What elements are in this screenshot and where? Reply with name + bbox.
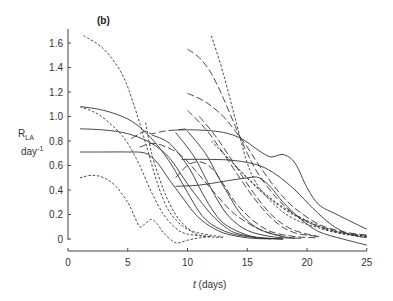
y-tick-label: 1.4 <box>49 62 63 73</box>
y-tick-label: 0.6 <box>49 160 63 171</box>
y-tick-label: 1.6 <box>49 38 63 49</box>
series-line-solid-7 <box>152 135 284 239</box>
x-tick-label: 15 <box>242 257 254 268</box>
chart-title: (b) <box>97 15 110 26</box>
y-axis-unit: day <box>21 146 37 157</box>
x-tick-label: 0 <box>65 257 71 268</box>
y-axis-unit-sup: -1 <box>37 145 43 152</box>
series-line-solid-1 <box>81 107 283 239</box>
series-line-long-dash-7 <box>199 117 319 237</box>
y-axis-title-unit: day-1 <box>21 145 43 157</box>
series-line-short-dash-7 <box>223 153 366 236</box>
y-axis-title-main: RLA <box>18 128 34 141</box>
y-tick-label: 0.8 <box>49 136 63 147</box>
x-axis-title: t (days) <box>193 279 226 290</box>
series-line-solid-3 <box>80 152 271 239</box>
x-axis-title-unit: (days) <box>196 279 227 290</box>
series-line-long-dash-5 <box>176 162 319 238</box>
y-tick-label: 0.2 <box>49 209 63 220</box>
y-tick-label: 0.4 <box>49 185 63 196</box>
x-tick-label: 25 <box>361 257 373 268</box>
x-tick-label: 20 <box>301 257 313 268</box>
y-tick-label: 1.0 <box>49 111 63 122</box>
series-line-solid-6 <box>176 177 367 245</box>
x-tick-label: 5 <box>125 257 131 268</box>
x-tick-label: 10 <box>182 257 194 268</box>
y-axis-subscript: LA <box>25 134 34 141</box>
y-tick-label: 0 <box>57 234 63 245</box>
series-line-solid-2 <box>80 129 283 239</box>
y-axis-title: RLA day-1 <box>18 128 43 157</box>
series-lines <box>80 36 367 245</box>
y-axis-symbol: R <box>18 128 25 139</box>
series-line-long-dash-2 <box>188 93 367 235</box>
series-line-short-dash-1 <box>84 36 224 237</box>
series-line-long-dash-4 <box>140 143 283 236</box>
chart: 00.20.40.60.81.01.21.41.6 0510152025 (b)… <box>0 0 393 301</box>
axes <box>68 29 367 251</box>
y-tick-label: 1.2 <box>49 87 63 98</box>
